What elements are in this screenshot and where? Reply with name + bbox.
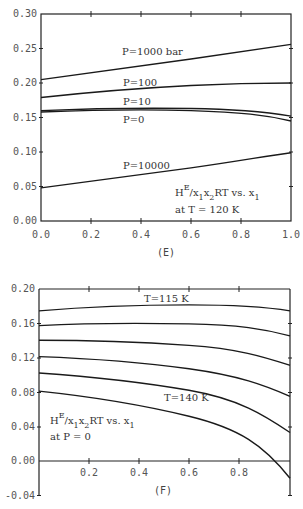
chart-e: 0.00 0.05 0.10 0.15 0.20 0.25 0.30 0.0 0…: [13, 8, 300, 258]
chart-f-ytick: 0.08: [11, 387, 35, 398]
chart-f: -0.04 0.00 0.04 0.08 0.12 0.16 0.20 0.2 …: [5, 283, 292, 501]
chart-e-xtick: 0.4: [132, 229, 150, 240]
label-t140: T=140 K: [164, 392, 209, 403]
label-p10000: P=10000: [123, 160, 170, 171]
chart-e-annotation: HE/x1x2RT vs. x1: [175, 183, 260, 202]
chart-f-ytick: 0.04: [11, 421, 35, 432]
chart-e-caption: (E): [157, 247, 175, 258]
chart-f-ytick: 0.20: [11, 283, 35, 294]
chart-e-xtick: 0.0: [32, 229, 50, 240]
curve-t125: [39, 340, 290, 365]
chart-f-ytick: 0.12: [11, 352, 35, 363]
curve-t120: [39, 323, 290, 336]
chart-f-ytick: 0.00: [11, 455, 35, 466]
chart-e-ytick: 0.20: [13, 77, 37, 88]
label-p100: P=100: [123, 77, 157, 88]
chart-f-annotation-condition: at P = 0: [50, 431, 91, 442]
chart-e-annotation-condition: at T = 120 K: [175, 204, 240, 215]
chart-f-xtick: 0.2: [80, 467, 98, 478]
chart-e-xtick: 0.8: [232, 229, 250, 240]
chart-e-xtick: 0.2: [82, 229, 100, 240]
chart-f-x-ticks: [89, 286, 239, 464]
chart-e-xtick: 0.6: [182, 229, 200, 240]
chart-f-y-ticks: [37, 324, 292, 496]
chart-e-ytick: 0.00: [13, 215, 37, 226]
chart-f-xtick: 0.8: [230, 467, 248, 478]
chart-f-caption: (F): [154, 485, 172, 496]
curve-t115: [39, 305, 290, 311]
label-p1000: P=1000 bar: [122, 46, 183, 57]
chart-f-annotation: HE/x1x2RT vs. x1: [50, 411, 135, 430]
chart-e-ytick: 0.10: [13, 146, 37, 157]
curve-p100: [41, 83, 291, 98]
chart-e-ytick: 0.25: [13, 43, 37, 54]
figure: 0.00 0.05 0.10 0.15 0.20 0.25 0.30 0.0 0…: [0, 0, 303, 509]
label-p0: P=0: [123, 114, 144, 125]
chart-e-ytick: 0.05: [13, 181, 37, 192]
chart-f-ytick: 0.16: [11, 318, 35, 329]
chart-e-ytick: 0.15: [13, 112, 37, 123]
chart-e-ytick: 0.30: [13, 8, 37, 19]
label-p10: P=10: [123, 96, 151, 107]
chart-e-xtick: 1.0: [282, 229, 300, 240]
chart-f-xtick: 0.4: [130, 467, 148, 478]
label-t115: T=115 K: [144, 293, 189, 304]
chart-f-ytick: -0.04: [5, 490, 35, 501]
chart-f-xtick: 0.6: [180, 467, 198, 478]
